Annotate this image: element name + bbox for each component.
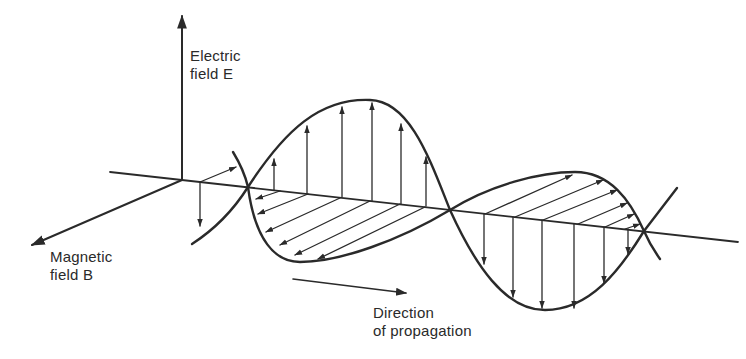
propagation-label-line1: Direction <box>373 304 472 322</box>
magnetic-field-label: Magnetic field B <box>50 248 112 284</box>
e-wave-positive <box>248 100 450 210</box>
magnetic-field-label-line2: field B <box>50 266 112 284</box>
e-wave-trail <box>644 188 677 231</box>
electric-field-label: Electric field E <box>190 47 241 83</box>
b-arrow-lead <box>200 167 236 182</box>
b-arrows-first <box>256 191 425 259</box>
propagation-label-line2: of propagation <box>373 322 472 340</box>
b-wave-trail <box>644 231 660 259</box>
e-wave-negative <box>450 210 644 310</box>
b-wave-lead <box>233 152 248 187</box>
electric-field-label-line2: field E <box>190 65 241 83</box>
magnetic-field-label-line1: Magnetic <box>50 248 112 266</box>
propagation-label: Direction of propagation <box>373 304 472 340</box>
propagation-direction-arrow <box>293 279 406 293</box>
magnetic-field-axis <box>32 180 182 245</box>
electric-field-label-line1: Electric <box>190 47 241 65</box>
